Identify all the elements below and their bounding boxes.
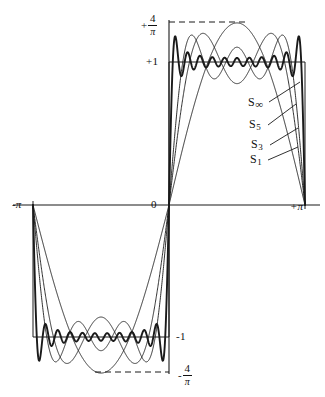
series-label-s1: S1: [250, 152, 262, 167]
y-label-plus-four-over-pi-denominator: π: [149, 27, 156, 37]
y-label-minus-four-over-pi-fraction: 4 π: [183, 363, 192, 387]
plot-canvas: [0, 0, 325, 397]
series-label-s3-subscript: 3: [258, 142, 263, 152]
y-label-plus-four-over-pi-fraction: 4 π: [148, 13, 157, 37]
y-label-minus-four-over-pi-sign: -: [178, 369, 182, 381]
series-label-s5: S5: [249, 117, 261, 132]
series-label-s1-subscript: 1: [257, 157, 262, 167]
y-label-minus-four-over-pi: - 4 π: [178, 363, 192, 387]
series-label-s3-base: S: [251, 137, 258, 151]
y-label-minus-one: -1: [176, 331, 186, 342]
y-label-plus-one: +1: [146, 56, 158, 67]
leader-line-s-5: [268, 104, 296, 125]
y-label-plus-four-over-pi-sign: +: [141, 19, 147, 31]
y-label-plus-four-over-pi-numerator: 4: [149, 13, 157, 24]
series-label-s5-subscript: 5: [256, 122, 261, 132]
y-label-minus-four-over-pi-denominator: π: [184, 377, 191, 387]
series-label-s-infinity-subscript: ∞: [255, 98, 263, 110]
y-label-minus-four-over-pi-numerator: 4: [183, 363, 191, 374]
series-label-s-infinity: S∞: [248, 95, 263, 110]
series-label-s5-base: S: [249, 117, 256, 131]
series-label-s3: S3: [251, 137, 263, 152]
leader-line-s-3: [270, 128, 298, 145]
series-label-s1-base: S: [250, 152, 257, 166]
x-label-minus-pi: -π: [12, 199, 21, 210]
x-label-plus-pi: +π: [290, 201, 303, 212]
x-label-origin: 0: [151, 199, 157, 210]
series-label-s-infinity-base: S: [248, 95, 255, 109]
y-label-plus-four-over-pi: + 4 π: [141, 13, 157, 37]
fourier-square-wave-figure: + 4 π +1 -1 - 4 π -π 0 +π S∞ S5 S3 S1: [0, 0, 325, 397]
